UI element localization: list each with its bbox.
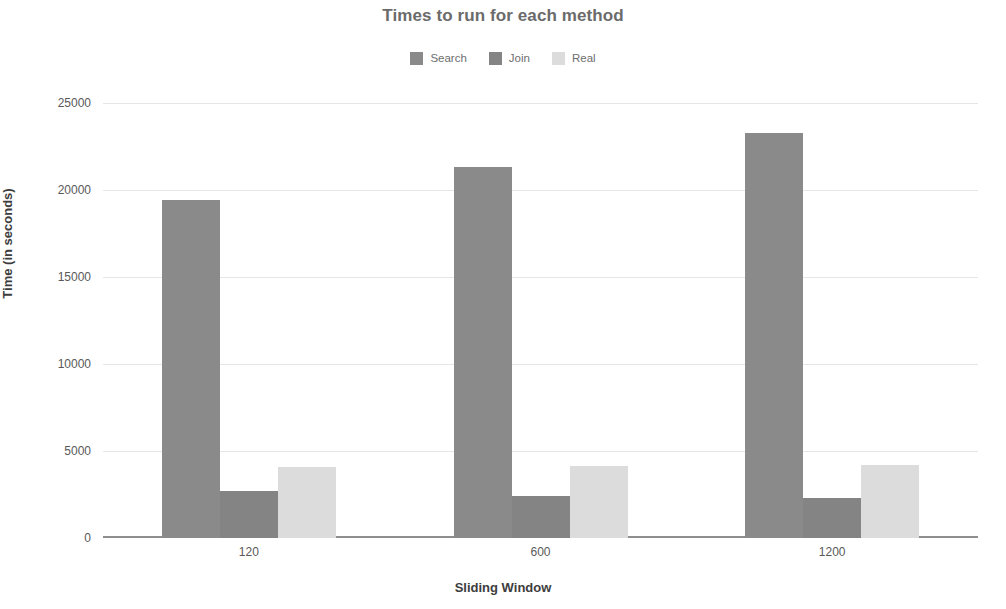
legend-label: Join	[509, 53, 530, 65]
legend-item-search[interactable]: Search	[410, 52, 466, 65]
legend-swatch-icon	[410, 52, 423, 65]
y-tick-label: 20000	[0, 183, 103, 197]
x-tick-label: 600	[530, 545, 550, 559]
bar-join-600[interactable]	[512, 496, 570, 538]
plot-area	[103, 103, 978, 538]
bar-search-1200[interactable]	[745, 133, 803, 538]
gridline	[103, 451, 978, 452]
bar-real-1200[interactable]	[861, 465, 919, 538]
y-tick-label: 5000	[0, 444, 103, 458]
bar-search-120[interactable]	[162, 200, 220, 538]
legend-swatch-icon	[489, 52, 502, 65]
legend-item-join[interactable]: Join	[489, 52, 530, 65]
bar-search-600[interactable]	[454, 167, 512, 538]
chart-title: Times to run for each method	[0, 6, 1006, 26]
y-axis-title: Time (in seconds)	[0, 134, 15, 354]
legend-swatch-icon	[552, 52, 565, 65]
bar-chart: Times to run for each method SearchJoinR…	[0, 0, 1006, 609]
gridline	[103, 103, 978, 104]
bar-join-120[interactable]	[220, 491, 278, 538]
gridline	[103, 190, 978, 191]
x-tick-label: 1200	[819, 545, 846, 559]
legend-item-real[interactable]: Real	[552, 52, 596, 65]
y-tick-label: 0	[0, 531, 103, 545]
bar-real-120[interactable]	[278, 467, 336, 538]
y-tick-label: 10000	[0, 357, 103, 371]
x-tick-label: 120	[239, 545, 259, 559]
legend-label: Search	[430, 53, 466, 65]
gridline	[103, 277, 978, 278]
chart-legend: SearchJoinReal	[0, 52, 1006, 65]
x-axis-title: Sliding Window	[0, 580, 1006, 595]
gridline	[103, 364, 978, 365]
bar-real-600[interactable]	[570, 466, 628, 538]
y-tick-label: 25000	[0, 96, 103, 110]
bar-join-1200[interactable]	[803, 498, 861, 538]
y-tick-label: 15000	[0, 270, 103, 284]
legend-label: Real	[572, 53, 596, 65]
